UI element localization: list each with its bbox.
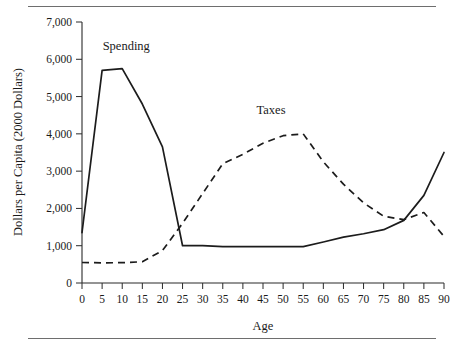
x-tick-label: 85 bbox=[418, 293, 430, 305]
x-tick-label: 45 bbox=[257, 293, 269, 305]
x-tick-label: 10 bbox=[116, 293, 128, 305]
x-tick-label: 50 bbox=[277, 293, 289, 305]
y-tick-label: 1,000 bbox=[46, 240, 72, 253]
series-line-taxes bbox=[82, 134, 444, 263]
y-tick-marks bbox=[76, 22, 82, 283]
figure-container: 01,0002,0003,0004,0005,0006,0007,000 051… bbox=[0, 0, 461, 353]
y-tick-label: 6,000 bbox=[46, 53, 72, 66]
y-tick-label: 3,000 bbox=[46, 165, 72, 178]
x-tick-label: 15 bbox=[137, 293, 149, 305]
x-axis: 051015202530354045505560657075808590 bbox=[79, 283, 450, 305]
series-annotations: SpendingTaxes bbox=[103, 39, 286, 118]
y-tick-label: 4,000 bbox=[46, 128, 72, 141]
line-chart: 01,0002,0003,0004,0005,0006,0007,000 051… bbox=[0, 0, 461, 353]
x-tick-label: 0 bbox=[79, 293, 85, 305]
x-axis-title: Age bbox=[253, 319, 274, 333]
x-tick-label: 20 bbox=[157, 293, 169, 305]
y-tick-label: 0 bbox=[66, 277, 72, 289]
x-tick-label: 60 bbox=[318, 293, 330, 305]
y-tick-labels: 01,0002,0003,0004,0005,0006,0007,000 bbox=[46, 16, 72, 289]
x-tick-label: 55 bbox=[297, 293, 309, 305]
series-line-spending bbox=[82, 69, 444, 247]
x-tick-label: 40 bbox=[237, 293, 249, 305]
y-tick-label: 2,000 bbox=[46, 202, 72, 215]
data-series-group bbox=[82, 69, 444, 263]
x-tick-label: 5 bbox=[99, 293, 105, 305]
y-axis: 01,0002,0003,0004,0005,0006,0007,000 bbox=[46, 16, 82, 289]
x-tick-label: 30 bbox=[197, 293, 209, 305]
x-tick-labels: 051015202530354045505560657075808590 bbox=[79, 293, 450, 305]
series-label-spending: Spending bbox=[103, 39, 151, 53]
x-tick-label: 35 bbox=[217, 293, 229, 305]
x-tick-label: 90 bbox=[438, 293, 450, 305]
x-tick-label: 70 bbox=[358, 293, 370, 305]
y-tick-label: 5,000 bbox=[46, 91, 72, 104]
x-tick-marks bbox=[82, 283, 444, 289]
x-tick-label: 75 bbox=[378, 293, 390, 305]
x-tick-label: 25 bbox=[177, 293, 189, 305]
x-tick-label: 80 bbox=[398, 293, 410, 305]
series-label-taxes: Taxes bbox=[257, 103, 286, 117]
x-tick-label: 65 bbox=[338, 293, 350, 305]
y-tick-label: 7,000 bbox=[46, 16, 72, 29]
y-axis-title: Dollars per Capita (2000 Dollars) bbox=[11, 68, 25, 236]
